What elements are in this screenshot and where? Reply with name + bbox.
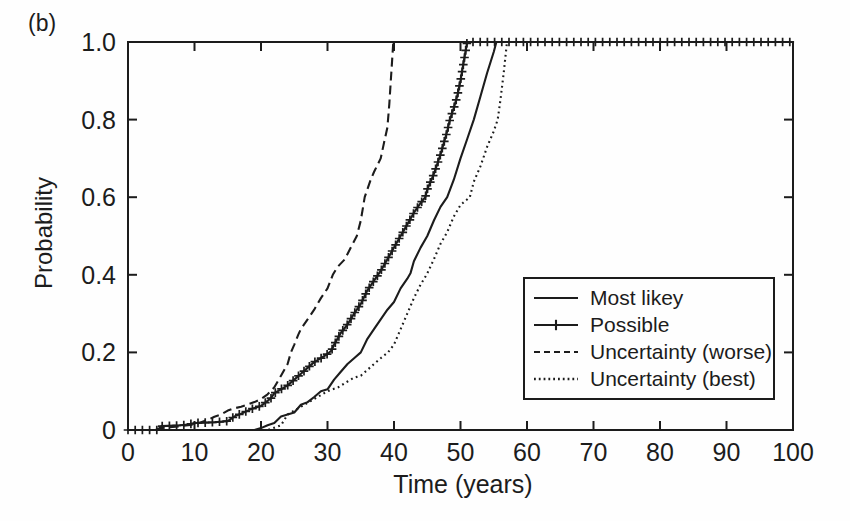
svg-text:20: 20 [247,438,275,466]
dashed-line-icon [533,344,579,360]
legend-item-possible: Possible [533,312,767,339]
plus-marker-line-icon [533,317,579,333]
svg-text:0.2: 0.2 [81,338,116,366]
svg-text:40: 40 [380,438,408,466]
svg-text:90: 90 [713,438,741,466]
chart-canvas: 010203040506070809010000.20.40.60.81.0 [0,0,850,521]
legend-label: Most likey [590,286,683,310]
legend-item-uncertainty-best: Uncertainty (best) [533,366,767,393]
svg-text:100: 100 [772,438,814,466]
svg-text:0: 0 [102,416,116,444]
dotted-line-icon [533,371,579,387]
svg-text:0.8: 0.8 [81,106,116,134]
legend-item-uncertainty-worse: Uncertainty (worse) [533,339,767,366]
legend-label: Uncertainty (best) [590,367,756,391]
legend-item-most-likey: Most likey [533,285,767,312]
legend-label: Uncertainty (worse) [590,340,772,364]
solid-line-icon [533,290,579,306]
svg-text:10: 10 [181,438,209,466]
svg-text:0.6: 0.6 [81,183,116,211]
svg-text:50: 50 [447,438,475,466]
svg-text:1.0: 1.0 [81,28,116,56]
legend: Most likey Possible Uncertainty (worse) … [523,277,775,400]
legend-label: Possible [590,313,669,337]
svg-text:0.4: 0.4 [81,261,116,289]
svg-text:70: 70 [580,438,608,466]
svg-text:60: 60 [513,438,541,466]
figure-panel-b: (b) Probability 010203040506070809010000… [0,0,850,521]
svg-text:0: 0 [121,438,135,466]
svg-text:80: 80 [646,438,674,466]
x-axis-title: Time (years) [393,470,532,499]
svg-text:30: 30 [314,438,342,466]
